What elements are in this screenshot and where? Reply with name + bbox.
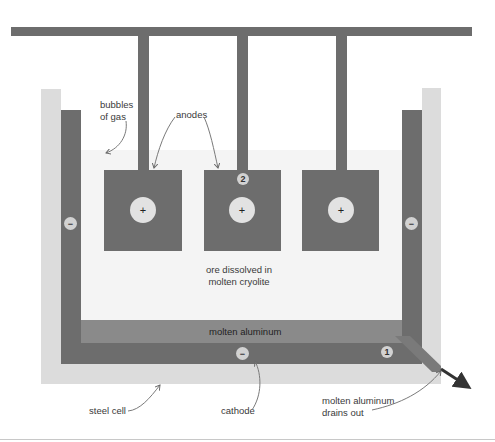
drain-pipe — [395, 336, 441, 372]
steel-cell-arrow-icon — [128, 385, 160, 411]
drain-arrow-icon — [441, 369, 464, 384]
cathode-arrow-icon — [252, 361, 260, 410]
anodes-arrow-1-icon — [154, 117, 175, 168]
bubbles-arrow-icon — [106, 121, 126, 153]
drains-arrow-icon — [372, 371, 441, 410]
anodes-arrow-2-icon — [204, 117, 218, 168]
annotation-arrows — [0, 0, 495, 442]
bottom-divider — [0, 439, 495, 440]
